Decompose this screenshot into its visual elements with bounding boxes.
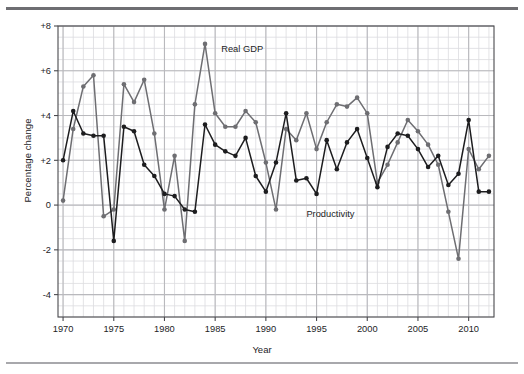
svg-text:1970: 1970: [53, 324, 74, 334]
svg-text:1990: 1990: [256, 324, 277, 334]
svg-text:-4: -4: [43, 290, 51, 300]
productivity-label: Productivity: [306, 209, 354, 219]
minor-gridlines: [58, 26, 494, 317]
figure-container: +8+6+4+20-2-4 19701975198019851990199520…: [0, 0, 524, 374]
svg-text:+4: +4: [40, 111, 51, 121]
line-chart-svg: +8+6+4+20-2-4 19701975198019851990199520…: [0, 0, 524, 374]
svg-text:2010: 2010: [458, 324, 479, 334]
svg-text:-2: -2: [43, 245, 51, 255]
x-axis-title: Year: [0, 344, 524, 355]
real-gdp-label: Real GDP: [221, 44, 263, 54]
y-axis-title: Percentage change: [22, 101, 33, 221]
svg-text:2005: 2005: [408, 324, 429, 334]
y-axis-ticks: +8+6+4+20-2-4: [40, 21, 58, 300]
x-axis-ticks: 197019751980198519901995200020052010: [53, 317, 479, 334]
svg-text:+6: +6: [40, 66, 51, 76]
svg-text:1980: 1980: [154, 324, 175, 334]
svg-text:+8: +8: [40, 21, 51, 31]
svg-text:1975: 1975: [103, 324, 124, 334]
svg-text:1995: 1995: [306, 324, 327, 334]
svg-text:2000: 2000: [357, 324, 378, 334]
svg-text:0: 0: [46, 200, 51, 210]
svg-text:+2: +2: [40, 156, 51, 166]
svg-text:1985: 1985: [205, 324, 226, 334]
